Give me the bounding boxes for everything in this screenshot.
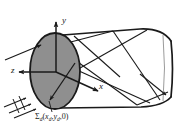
diagram-canvas [0, 0, 184, 138]
sigma-subscript: d [40, 116, 43, 122]
y-coordinate-subscript: d [57, 116, 60, 122]
entrance-aperture-ellipse [30, 33, 80, 109]
x-coordinate-subscript: d [49, 116, 52, 122]
close-paren: ) [66, 112, 69, 121]
y-axis-label: y [62, 16, 66, 25]
ray-diagram-figure: y z x Σd(xd,yd,0) [0, 0, 184, 138]
source-point-label: Σd(xd,yd,0) [35, 113, 68, 121]
sigma-symbol: Σ [35, 112, 40, 121]
exit-ray [140, 74, 166, 95]
x-axis-label: x [99, 82, 103, 91]
z-axis-label: z [11, 66, 15, 75]
